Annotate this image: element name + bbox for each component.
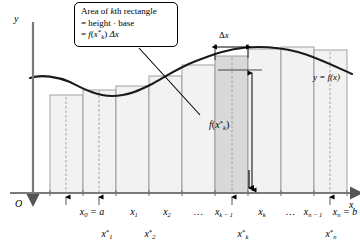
- label-subscript: 1: [135, 211, 138, 218]
- origin-label: O: [15, 199, 22, 209]
- sample-point-label-xsn: x*n: [325, 229, 336, 239]
- rectangle-1: [50, 95, 83, 193]
- x-axis-label-dots1: …: [193, 207, 205, 217]
- curve-label: y = f(x): [313, 73, 340, 82]
- y-axis-label: y: [14, 14, 18, 24]
- rectangle-4: [149, 76, 182, 193]
- label-subscript: k: [246, 233, 249, 240]
- height-label: f(x*k): [209, 120, 229, 130]
- callout-delta-x: Δx: [109, 29, 118, 39]
- label-subscript: n − 1: [308, 211, 322, 218]
- sample-point-label-xs1: x*1: [101, 229, 112, 239]
- label-suffix: = a: [87, 206, 104, 217]
- label-subscript: 2: [168, 211, 171, 218]
- x-axis-label-xn: xn = b: [333, 207, 357, 217]
- callout-sub-k: k: [101, 33, 104, 40]
- rectangle-3: [116, 86, 149, 193]
- x-axis-label-dots2: …: [285, 207, 297, 217]
- riemann-sum-figure: Area of kth rectangle = height · base = …: [0, 0, 360, 242]
- label-subscript: k − 1: [219, 211, 233, 218]
- x-axis-label-x0: x0 = a: [80, 207, 104, 217]
- sample-point-arrows: [66, 197, 330, 205]
- callout-line-1: Area of kth rectangle: [81, 6, 173, 18]
- label-subscript: n: [337, 211, 340, 218]
- label-subscript: n: [333, 233, 336, 240]
- label-subscript: 0: [84, 211, 87, 218]
- x-axis-label-x2: x2: [163, 207, 171, 217]
- sample-point-label-xsk: x*k: [238, 229, 249, 239]
- label-suffix: = b: [340, 206, 357, 217]
- riemann-rectangles: [50, 47, 347, 193]
- x-axis-label-xn1: xn − 1: [304, 207, 323, 217]
- label-subscript: 1: [109, 233, 112, 240]
- x-axis-label-xk1: xk − 1: [215, 207, 233, 217]
- label-subscript: k: [263, 211, 266, 218]
- delta-x-label: Δx: [219, 31, 229, 40]
- rectangle-7: [248, 49, 281, 193]
- x-axis-label-xk: xk: [258, 207, 265, 217]
- sample-point-label-xs2: x*2: [144, 229, 155, 239]
- callout-line-3: = f(x*k) Δx: [81, 29, 173, 42]
- callout-line-2: = height · base: [81, 18, 173, 30]
- label-subscript: 2: [152, 233, 155, 240]
- x-axis-label-x1: x1: [130, 207, 138, 217]
- rectangle-2: [83, 90, 116, 193]
- rectangle-8: [281, 47, 314, 193]
- callout-box: Area of kth rectangle = height · base = …: [74, 2, 178, 47]
